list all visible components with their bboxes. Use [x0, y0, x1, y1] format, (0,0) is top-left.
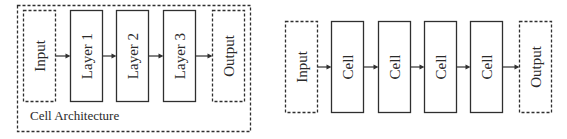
left-node-label: Layer 1	[79, 33, 95, 79]
cell-architecture-caption: Cell Architecture	[30, 108, 119, 123]
right-node-label: Output	[528, 45, 544, 88]
right-node-cell-4: Cell	[471, 22, 503, 113]
arrowhead-icon	[420, 65, 425, 70]
right-node-label: Input	[294, 50, 310, 82]
left-node-layer-3-3: Layer 3	[164, 11, 196, 102]
right-node-cell-2: Cell	[379, 22, 411, 113]
right-arrow	[364, 65, 379, 70]
right-node-label: Cell	[387, 55, 403, 80]
left-node-input: Input	[24, 11, 56, 102]
right-arrow	[411, 65, 425, 70]
left-node-label: Layer 3	[172, 33, 188, 79]
right-arrow	[503, 65, 520, 70]
left-node-label: Layer 2	[125, 33, 141, 79]
arrowhead-icon	[515, 65, 520, 70]
right-node-output: Output	[520, 22, 552, 113]
right-node-label: Cell	[340, 55, 356, 80]
arrowhead-icon	[466, 65, 471, 70]
right-node-input: Input	[286, 22, 318, 113]
arrowhead-icon	[327, 65, 332, 70]
diagram-canvas: InputLayer 1Layer 2Layer 3Output Cell Ar…	[0, 0, 567, 139]
right-node-cell-1: Cell	[332, 22, 364, 113]
left-node-output: Output	[213, 11, 245, 102]
left-node-layer-2-2: Layer 2	[117, 11, 149, 102]
right-arrow	[318, 65, 332, 70]
right-node-cell-3: Cell	[425, 22, 457, 113]
right-arrow	[457, 65, 471, 70]
left-node-label: Input	[32, 39, 48, 71]
right-node-label: Cell	[433, 55, 449, 80]
arrowhead-icon	[374, 65, 379, 70]
left-node-label: Output	[221, 34, 237, 77]
right-node-label: Cell	[479, 55, 495, 80]
left-node-layer-1-1: Layer 1	[71, 11, 103, 102]
